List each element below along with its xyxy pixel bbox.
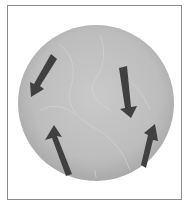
globe <box>18 25 174 181</box>
globe-diagram <box>0 0 189 202</box>
